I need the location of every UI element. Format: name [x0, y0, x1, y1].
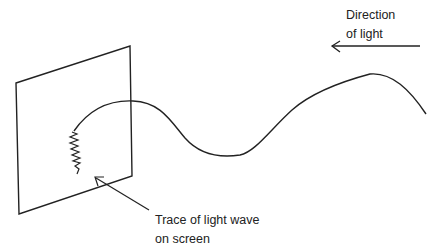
- trace-label-line2: on screen: [155, 230, 259, 249]
- trace-label: Trace of light wave on screen: [155, 211, 259, 249]
- direction-of-light-label: Direction of light: [346, 6, 395, 44]
- wave-trace-zigzag: [70, 132, 80, 174]
- trace-pointer-arrow-icon: [95, 177, 149, 210]
- trace-label-line1: Trace of light wave: [155, 211, 259, 230]
- light-wave: [74, 74, 426, 156]
- direction-label-line1: Direction: [346, 6, 395, 25]
- direction-label-line2: of light: [346, 25, 395, 44]
